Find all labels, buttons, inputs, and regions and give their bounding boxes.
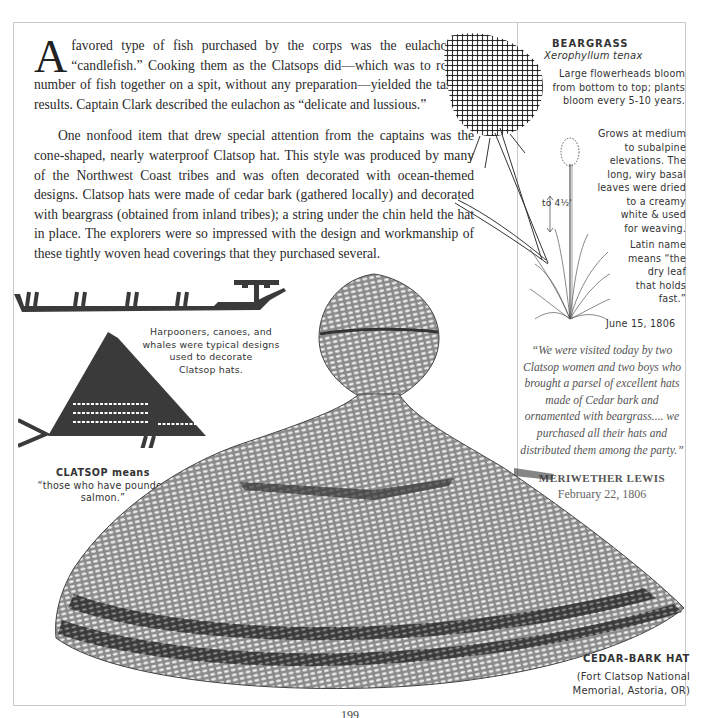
cedar-bark-hat-illustration-icon [44, 268, 694, 704]
scientific-name: Xerophyllum tenax [544, 50, 643, 61]
note-height: to 4½' [542, 198, 572, 208]
page-number: 199 [320, 708, 380, 718]
caption-hat: CEDAR-BARK HAT (Fort Clatsop National Me… [555, 652, 690, 698]
article-paragraph-2: One nonfood item that drew special atten… [34, 126, 474, 263]
article-body: Afavored type of fish purchased by the c… [34, 36, 474, 264]
drop-cap: A [34, 39, 67, 75]
note-habitat: Grows at medium to subalpine elevations.… [590, 127, 686, 235]
note-flowerheads: Large flowerheads bloom from bottom to t… [535, 67, 685, 108]
article-paragraph-1: Afavored type of fish purchased by the c… [34, 36, 474, 114]
sidebar-title: BEARGRASS [552, 38, 629, 49]
book-page: Afavored type of fish purchased by the c… [0, 0, 702, 718]
